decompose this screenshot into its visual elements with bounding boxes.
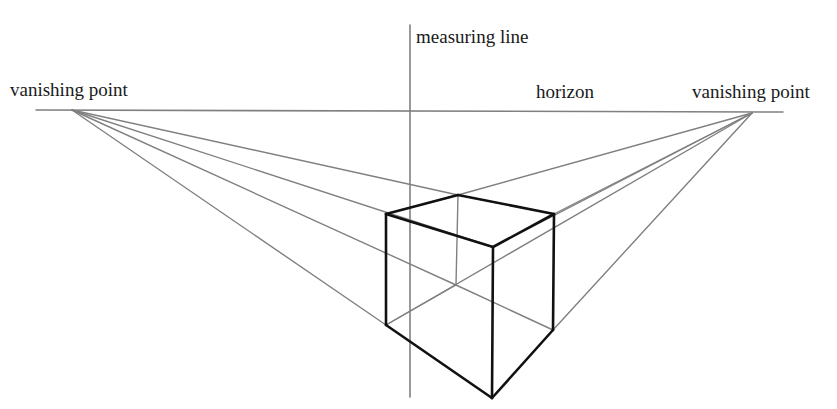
left-vp-guide-bottom-left xyxy=(72,110,386,325)
cube-edge-top-front-right xyxy=(493,214,554,247)
right-vanishing-point-label: vanishing point xyxy=(692,82,810,101)
horizon-label: horizon xyxy=(536,82,594,101)
left-vp-guide-top-back xyxy=(72,110,458,195)
left-vp-guide-bottom-back xyxy=(72,110,456,285)
perspective-drawing xyxy=(0,0,837,409)
cube-edge-bottom-front-right xyxy=(492,330,553,398)
two-point-perspective-diagram: vanishing point vanishing point measurin… xyxy=(0,0,837,409)
cube-edge-top-left-front xyxy=(386,214,493,247)
cube-edge-front-vertical xyxy=(492,247,493,398)
right-vp-guide-bottom-right xyxy=(553,113,752,330)
right-vp-guide-ext-bottom xyxy=(386,285,456,325)
measuring-line-label: measuring line xyxy=(416,27,528,46)
cube-edge-top-back-right xyxy=(458,195,554,214)
left-vanishing-point-label: vanishing point xyxy=(10,80,128,99)
left-vp-guide-ext-bottom xyxy=(456,285,553,330)
hidden-back-edge xyxy=(456,195,458,285)
cube-edge-top-left-back xyxy=(386,195,458,214)
cube-edge-bottom-left-front xyxy=(386,325,492,398)
right-vp-guide-top-back xyxy=(458,113,752,195)
cube-edge-right-vertical xyxy=(553,214,554,330)
